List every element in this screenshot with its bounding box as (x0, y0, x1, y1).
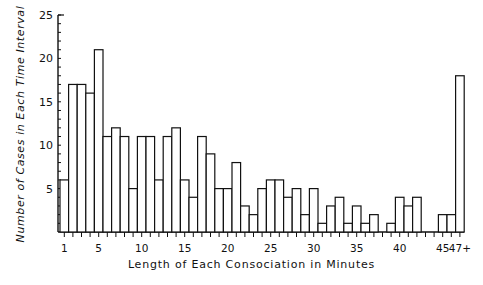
x-tick-label: 1 (61, 242, 68, 254)
x-tick-label: 20 (221, 242, 234, 254)
bar (370, 215, 379, 232)
x-tick-label: 45 (436, 242, 449, 254)
bar (69, 84, 78, 232)
bar (309, 189, 318, 232)
x-tick-label: 47+ (449, 242, 471, 254)
x-tick-label: 25 (264, 242, 277, 254)
bar (189, 197, 198, 232)
bar (223, 189, 232, 232)
bar (447, 215, 456, 232)
bar (172, 128, 181, 232)
bar (232, 163, 241, 232)
bar (292, 189, 301, 232)
x-axis-label: Length of Each Consociation in Minutes (0, 258, 483, 271)
y-tick-label: 5 (46, 183, 53, 196)
y-tick-label: 10 (39, 139, 53, 152)
bar (198, 137, 207, 232)
bar (180, 180, 189, 232)
y-axis-label-text: Number of Cases in Each Time Interval (14, 6, 27, 243)
bar (266, 180, 275, 232)
bar (258, 189, 267, 232)
bar (129, 189, 138, 232)
bar (404, 206, 413, 232)
bar (301, 215, 310, 232)
bar (344, 223, 353, 232)
bar (395, 197, 404, 232)
bar (77, 84, 86, 232)
bar (155, 180, 164, 232)
x-tick-label: 40 (393, 242, 406, 254)
y-tick-label: 25 (39, 9, 53, 22)
bar (318, 223, 327, 232)
bar (163, 137, 172, 232)
y-axis-label: Number of Cases in Each Time Interval (10, 14, 30, 234)
x-tick-label: 10 (135, 242, 148, 254)
x-tick-label: 15 (178, 242, 191, 254)
bar (112, 128, 121, 232)
bar (284, 197, 293, 232)
histogram-chart: 51015202515101520253035404547+ Number of… (0, 0, 483, 285)
bar (352, 206, 361, 232)
bar (120, 137, 129, 232)
bar (275, 180, 284, 232)
plot-area: 51015202515101520253035404547+ (0, 0, 483, 285)
y-tick-label: 20 (39, 52, 53, 65)
bar (137, 137, 146, 232)
bar (60, 180, 69, 232)
x-tick-label: 30 (307, 242, 320, 254)
bar (456, 76, 465, 232)
bar (146, 137, 155, 232)
bar (361, 223, 370, 232)
bar (335, 197, 344, 232)
bar (103, 137, 112, 232)
bar (387, 223, 396, 232)
bar (241, 206, 250, 232)
bar (94, 50, 103, 232)
bar (327, 206, 336, 232)
x-tick-label: 5 (95, 242, 102, 254)
bar (438, 215, 447, 232)
bar (215, 189, 224, 232)
x-tick-label: 35 (350, 242, 363, 254)
bar (413, 197, 422, 232)
y-tick-label: 15 (39, 96, 53, 109)
bar (249, 215, 258, 232)
bar (86, 93, 95, 232)
bar (206, 154, 215, 232)
